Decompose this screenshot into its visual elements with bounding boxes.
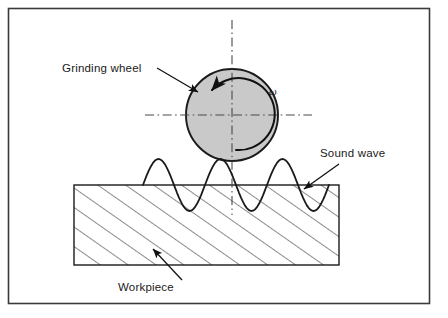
workpiece-hatching <box>74 185 339 265</box>
grinding-diagram: ω Grinding wheel Sound wave Workpiece <box>0 0 448 318</box>
grinding-wheel-label: Grinding wheel <box>62 62 142 74</box>
sound-wave-label: Sound wave <box>320 147 385 159</box>
workpiece-label: Workpiece <box>118 281 174 293</box>
angular-velocity-label: ω <box>269 85 277 97</box>
workpiece <box>74 185 339 265</box>
